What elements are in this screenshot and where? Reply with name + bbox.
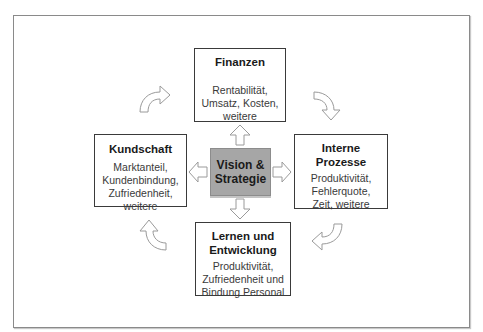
perspective-title: Kundschaft (95, 142, 186, 156)
perspective-title: Lernen und Entwicklung (196, 229, 290, 257)
perspective-items: Produktivität, Zufriedenheit und Bindung… (196, 260, 290, 299)
perspective-box-interne-prozesse: Interne Prozesse Produktivität, Fehlerqu… (294, 134, 388, 209)
perspective-items: Marktanteil, Kundenbindung, Zufriedenhei… (95, 161, 186, 213)
arrow-right-icon (272, 161, 292, 183)
perspective-title: Interne Prozesse (295, 141, 387, 169)
curved-arrow-top-left-icon (138, 84, 172, 114)
center-box-vision-strategie: Vision & Strategie (210, 148, 271, 196)
center-label: Vision & Strategie (215, 158, 266, 186)
perspective-title: Finanzen (195, 55, 285, 69)
perspective-box-kundschaft: Kundschaft Marktanteil, Kundenbindung, Z… (94, 134, 187, 207)
perspective-box-finanzen: Finanzen Rentabilität, Umsatz, Kosten, w… (194, 48, 286, 122)
perspective-items: Rentabilität, Umsatz, Kosten, weitere (195, 84, 285, 123)
curved-arrow-bottom-right-icon (310, 222, 344, 254)
arrow-left-icon (188, 161, 208, 183)
curved-arrow-top-right-icon (312, 88, 344, 122)
perspective-box-lernen-entwicklung: Lernen und Entwicklung Produktivität, Zu… (195, 222, 291, 296)
arrow-down-icon (229, 198, 251, 220)
curved-arrow-bottom-left-icon (136, 218, 168, 252)
arrow-up-icon (229, 124, 251, 146)
perspective-items: Produktivität, Fehlerquote, Zeit, weiter… (295, 172, 387, 211)
